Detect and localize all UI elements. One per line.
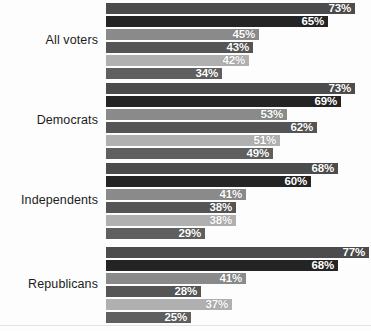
bar-value-label: 77%: [337, 246, 365, 258]
chart-group: Republicans77%68%41%28%37%25%: [0, 247, 371, 323]
bar-series-1[interactable]: [106, 83, 355, 94]
bar-value-label: 69%: [309, 95, 337, 107]
bar-value-label: 41%: [214, 272, 242, 284]
group-label-all-voters: All voters: [0, 33, 98, 47]
group-label-republicans: Republicans: [0, 277, 98, 291]
bar-series-1[interactable]: [106, 163, 338, 174]
bar-value-label: 73%: [323, 82, 351, 94]
bar-value-label: 45%: [227, 28, 255, 40]
bar-value-label: 73%: [323, 2, 351, 14]
bar-series-1[interactable]: [106, 247, 369, 258]
chart-group: Democrats73%69%53%62%51%49%: [0, 83, 371, 159]
bar-value-label: 28%: [169, 285, 197, 297]
chart-baseline: [0, 325, 371, 326]
bar-value-label: 65%: [296, 15, 324, 27]
chart-group: Independents68%60%41%38%38%29%: [0, 163, 371, 239]
bar-value-label: 49%: [241, 147, 269, 159]
bar-value-label: 62%: [285, 121, 313, 133]
bar-value-label: 41%: [214, 188, 242, 200]
group-label-independents: Independents: [0, 193, 98, 207]
bar-chart: All voters73%65%45%43%42%34%Democrats73%…: [0, 0, 371, 331]
bar-series-2[interactable]: [106, 96, 341, 107]
bar-value-label: 43%: [221, 41, 249, 53]
chart-group: All voters73%65%45%43%42%34%: [0, 3, 371, 79]
group-label-democrats: Democrats: [0, 113, 98, 127]
bar-value-label: 42%: [217, 54, 245, 66]
bar-value-label: 38%: [204, 214, 232, 226]
bar-value-label: 38%: [204, 201, 232, 213]
bar-series-2[interactable]: [106, 260, 338, 271]
bar-value-label: 34%: [190, 67, 218, 79]
bar-value-label: 37%: [200, 298, 228, 310]
bar-value-label: 68%: [306, 259, 334, 271]
bar-series-2[interactable]: [106, 16, 328, 27]
bar-series-1[interactable]: [106, 3, 355, 14]
bar-value-label: 68%: [306, 162, 334, 174]
bar-value-label: 29%: [173, 227, 201, 239]
bar-value-label: 25%: [159, 311, 187, 323]
bar-value-label: 53%: [255, 108, 283, 120]
bar-value-label: 60%: [279, 175, 307, 187]
bar-value-label: 51%: [248, 134, 276, 146]
